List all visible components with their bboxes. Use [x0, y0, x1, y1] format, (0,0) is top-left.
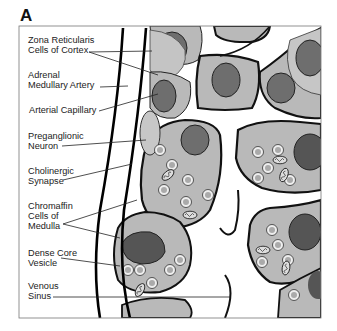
label-chromaffin-cells: Chromaffin Cells of Medulla — [28, 201, 73, 231]
label-preganglionic-neuron: Preganglionic Neuron — [28, 131, 84, 151]
label-zona-reticularis: Zona Reticularis Cells of Cortex — [28, 35, 94, 55]
label-dense-core-vesicle: Dense Core Vesicle — [28, 248, 77, 268]
label-venous-sinus: Venous Sinus — [28, 281, 59, 301]
label-arterial-capillary: Arterial Capillary — [29, 105, 96, 115]
label-cholinergic-synapse: Cholinergic Synapse — [28, 166, 74, 186]
label-adrenal-medullary-artery: Adrenal Medullary Artery — [28, 70, 94, 90]
